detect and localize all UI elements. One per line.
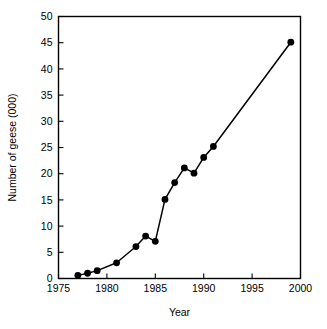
x-tick-label: 1985 bbox=[144, 282, 168, 294]
y-tick-label: 20 bbox=[41, 167, 53, 179]
data-point-marker: 1988: 21.1 bbox=[181, 165, 188, 172]
y-tick-label: 35 bbox=[41, 89, 53, 101]
data-point-marker: 1983: 6.1 bbox=[133, 243, 140, 250]
data-point-marker: 1985: 7.1 bbox=[152, 238, 159, 245]
data-point-marker: 1986: 15.1 bbox=[162, 196, 169, 203]
data-point-marker: 1990: 23.1 bbox=[200, 154, 207, 161]
data-point-marker: 1987: 18.3 bbox=[171, 179, 178, 186]
y-tick-label: 10 bbox=[41, 220, 53, 232]
x-tick-label: 2000 bbox=[289, 282, 313, 294]
data-point-marker: 1991: 25.2 bbox=[210, 143, 217, 150]
data-point-marker: 1979: 1.5 bbox=[94, 267, 101, 274]
x-tick-label: 1980 bbox=[95, 282, 119, 294]
y-tick-label: 5 bbox=[47, 246, 53, 258]
y-tick-label: 15 bbox=[41, 194, 53, 206]
data-point-marker: 1999: 45.1 bbox=[287, 39, 294, 46]
y-tick-label: 40 bbox=[41, 63, 53, 75]
y-tick-label: 30 bbox=[41, 115, 53, 127]
y-tick-label: 25 bbox=[41, 141, 53, 153]
y-tick-label: 50 bbox=[41, 10, 53, 22]
data-point-marker: 1984: 8.1 bbox=[142, 233, 149, 240]
x-tick-label: 1995 bbox=[240, 282, 264, 294]
data-point-marker: 1978: 1 bbox=[84, 270, 91, 277]
goose-population-line-chart: 197519801985199019952000 051015202530354… bbox=[0, 0, 327, 329]
data-point-marker: 1981: 3 bbox=[113, 259, 120, 266]
y-tick-label: 0 bbox=[47, 272, 53, 284]
x-tick-label: 1990 bbox=[192, 282, 216, 294]
chart-canvas: 197519801985199019952000 051015202530354… bbox=[0, 0, 327, 329]
data-point-marker: 1977: 0.6 bbox=[74, 272, 81, 279]
y-tick-label: 45 bbox=[41, 36, 53, 48]
data-point-marker: 1989: 20.1 bbox=[191, 170, 198, 177]
y-axis-title: Number of geese (000) bbox=[6, 94, 18, 202]
x-axis-title: Year bbox=[169, 306, 191, 318]
